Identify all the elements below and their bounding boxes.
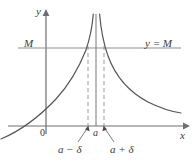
leader-a-plus-delta [102, 126, 114, 143]
graph-canvas [0, 0, 194, 163]
origin-label: 0 [40, 128, 45, 138]
right-bound-label: a + δ [110, 144, 134, 155]
horizontal-line-label: y = M [145, 38, 172, 49]
y-axis [43, 9, 50, 134]
threshold-label-M: M [24, 38, 33, 49]
curve-left-branch [1, 14, 93, 139]
math-graph-figure: y x M y = M 0 a a − δ a + δ [0, 0, 194, 163]
y-axis-arrowhead [43, 9, 50, 16]
x-axis-label: x [180, 130, 185, 141]
leader-line-a-plus-delta [105, 128, 115, 142]
left-bound-label: a − δ [58, 144, 82, 155]
center-label-a: a [93, 128, 98, 138]
leader-a-minus-delta [78, 126, 90, 143]
y-axis-label: y [36, 6, 41, 17]
leader-line-a-minus-delta [78, 128, 88, 142]
x-axis [8, 123, 190, 130]
curve-right-branch [100, 14, 181, 113]
